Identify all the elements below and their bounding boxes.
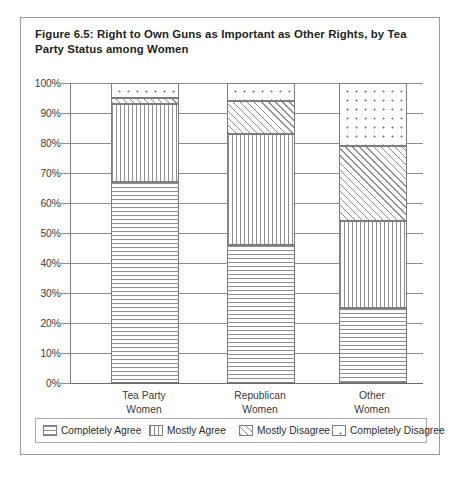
legend-swatch-vertical-lines xyxy=(149,425,163,436)
y-axis-tick-label: 90% xyxy=(17,108,61,119)
bar-segment xyxy=(111,98,179,104)
y-axis-tick-label: 60% xyxy=(17,198,61,209)
legend-item[interactable]: Mostly Agree xyxy=(149,419,226,442)
y-axis-tick-label: 50% xyxy=(17,228,61,239)
y-axis-tick-label: 80% xyxy=(17,138,61,149)
bar-segment xyxy=(227,101,295,134)
figure-title: Figure 6.5: Right to Own Guns as Importa… xyxy=(35,27,427,57)
bar-segment xyxy=(111,104,179,182)
y-axis-tick-mark xyxy=(61,323,70,324)
bar-segment xyxy=(339,146,407,221)
y-axis-tick-label: 30% xyxy=(17,288,61,299)
bar-segment xyxy=(227,245,295,383)
gridline-0 xyxy=(71,383,423,384)
y-axis-tick-mark xyxy=(61,173,70,174)
bar-segment xyxy=(339,308,407,383)
bar-segment xyxy=(111,83,179,98)
legend-swatch-horizontal-lines xyxy=(43,425,57,436)
x-axis-category-label: RepublicanWomen xyxy=(200,389,320,417)
y-axis-tick-mark xyxy=(61,293,70,294)
legend-swatch-dots xyxy=(332,425,346,436)
y-axis-tick-mark xyxy=(61,233,70,234)
legend-item[interactable]: Mostly Disagree xyxy=(239,419,330,442)
bar-segment xyxy=(227,134,295,245)
y-axis-tick-mark xyxy=(61,113,70,114)
y-axis-tick-label: 10% xyxy=(17,348,61,359)
legend-swatch-diagonal-hatch xyxy=(239,425,253,436)
y-axis-tick-mark xyxy=(61,353,70,354)
y-axis-tick-label: 100% xyxy=(17,78,61,89)
y-axis-tick-mark xyxy=(61,143,70,144)
plot-area: 0%10%20%30%40%50%60%70%80%90%100% xyxy=(70,83,423,384)
x-axis-category-line: Other xyxy=(312,389,432,403)
legend-item[interactable]: Completely Agree xyxy=(43,419,141,442)
y-axis-tick-label: 70% xyxy=(17,168,61,179)
bar-segment xyxy=(339,83,407,146)
x-axis-category-line: Republican xyxy=(200,389,320,403)
x-axis-category-line: Women xyxy=(84,403,204,417)
chart-legend: Completely AgreeMostly AgreeMostly Disag… xyxy=(35,418,427,443)
x-axis-category-label: Tea PartyWomen xyxy=(84,389,204,417)
y-axis-tick-mark xyxy=(61,203,70,204)
y-axis-tick-mark xyxy=(61,83,70,84)
y-axis-tick-mark xyxy=(61,263,70,264)
x-axis-category-line: Women xyxy=(200,403,320,417)
legend-item[interactable]: Completely Disagree xyxy=(332,419,445,442)
legend-label: Completely Disagree xyxy=(350,425,445,436)
x-axis-category-label: OtherWomen xyxy=(312,389,432,417)
legend-label: Mostly Agree xyxy=(167,425,226,436)
bar-segment xyxy=(227,83,295,101)
x-axis-category-line: Women xyxy=(312,403,432,417)
y-axis-tick-label: 0% xyxy=(17,378,61,389)
y-axis-tick-label: 40% xyxy=(17,258,61,269)
bar-segment xyxy=(339,221,407,308)
figure-box: Figure 6.5: Right to Own Guns as Importa… xyxy=(20,17,440,455)
legend-label: Mostly Disagree xyxy=(257,425,330,436)
figure-screenshot: Figure 6.5: Right to Own Guns as Importa… xyxy=(0,0,458,480)
y-axis-tick-mark xyxy=(61,383,70,384)
legend-label: Completely Agree xyxy=(61,425,141,436)
x-axis-category-line: Tea Party xyxy=(84,389,204,403)
bar-segment xyxy=(111,182,179,383)
y-axis-tick-label: 20% xyxy=(17,318,61,329)
